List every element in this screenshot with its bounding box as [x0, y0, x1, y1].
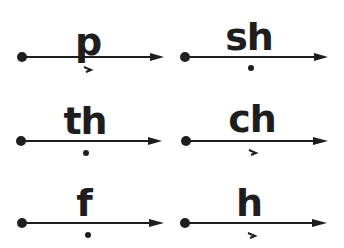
- sound-label: ch: [228, 100, 276, 138]
- sound-label: f: [76, 184, 92, 222]
- sound-card-h: h: [172, 182, 344, 248]
- short-sound-mark-icon: [248, 233, 255, 238]
- continuous-sound-dot-icon: [83, 150, 89, 156]
- sound-card-sh: sh: [172, 16, 344, 98]
- sound-card-ch: ch: [172, 100, 344, 182]
- sound-label: h: [236, 184, 262, 222]
- continuous-sound-dot-icon: [85, 232, 91, 238]
- short-sound-mark-icon: [249, 150, 256, 155]
- sound-card-p: p: [0, 16, 172, 98]
- sound-label: p: [75, 23, 101, 61]
- sound-card-f: f: [0, 182, 172, 248]
- continuous-sound-dot-icon: [248, 65, 254, 71]
- short-sound-mark-icon: [84, 67, 91, 72]
- sound-label: sh: [225, 18, 273, 56]
- sound-card-th: th: [0, 100, 172, 182]
- sound-label: th: [63, 102, 106, 140]
